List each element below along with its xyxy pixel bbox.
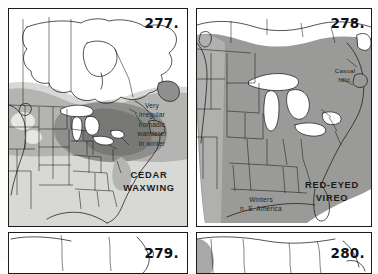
range-map-panel-278[interactable]: 278. Casual Nfld. Winters n. S. America … (196, 8, 372, 227)
lake-superior (61, 105, 93, 117)
range-patch-west (24, 130, 42, 144)
species-label-277: CEDAR WAXWING (113, 169, 185, 194)
species-label-278: RED-EYED VIREO (295, 179, 369, 204)
range-patch-northwest (11, 112, 35, 130)
plate-number-279: 279. (144, 245, 179, 261)
lake-huron (85, 116, 99, 135)
range-note-winter-277: Very irregular nomadic wanderer in winte… (121, 101, 183, 148)
newfoundland (357, 33, 371, 50)
lake-michigan (264, 91, 279, 131)
plate-number-277: 277. (144, 15, 179, 31)
range-note-casual-278: Casual Nfld. (323, 67, 367, 84)
plate-number-278: 278. (330, 15, 365, 31)
range-map-panel-280[interactable]: 280. (196, 232, 372, 274)
plate-number-280: 280. (330, 245, 365, 261)
range-map-panel-277[interactable]: 277. Very irregular nomadic wanderer in … (8, 8, 188, 227)
range-note-winter-278: Winters n. S. America (221, 195, 301, 214)
range-map-panel-279[interactable]: 279. (8, 232, 188, 274)
